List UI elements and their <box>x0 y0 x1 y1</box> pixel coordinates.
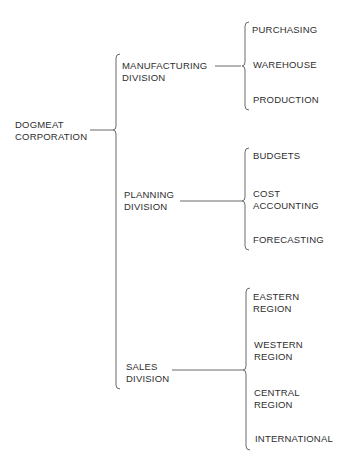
department-label-line1: EASTERN <box>253 291 299 303</box>
department-label: INTERNATIONAL <box>255 433 333 445</box>
department-label: PURCHASING <box>252 24 317 36</box>
division-label-line2: DIVISION <box>122 72 207 84</box>
department-label: FORECASTING <box>253 234 324 246</box>
department-production: PRODUCTION <box>253 94 319 106</box>
root-label-line2: CORPORATION <box>15 131 87 143</box>
department-western-region: WESTERN REGION <box>254 339 303 363</box>
department-label-line1: WESTERN <box>254 339 303 351</box>
root-node: DOGMEAT CORPORATION <box>15 119 87 143</box>
department-label-line1: COST <box>253 188 319 200</box>
department-eastern-region: EASTERN REGION <box>253 291 299 315</box>
department-forecasting: FORECASTING <box>253 234 324 246</box>
division-label-line1: PLANNING <box>124 189 174 201</box>
department-label: PRODUCTION <box>253 94 319 106</box>
division-planning: PLANNING DIVISION <box>124 189 174 213</box>
division-label-line1: SALES <box>126 361 169 373</box>
department-label-line2: REGION <box>253 303 299 315</box>
division-label-line2: DIVISION <box>124 201 174 213</box>
planning-brace <box>242 148 249 250</box>
org-chart: DOGMEAT CORPORATION MANUFACTURING DIVISI… <box>0 0 350 464</box>
department-label-line2: REGION <box>254 351 303 363</box>
sales-brace <box>243 288 250 450</box>
division-label-line1: MANUFACTURING <box>122 60 207 72</box>
department-label-line2: REGION <box>254 399 300 411</box>
department-budgets: BUDGETS <box>253 150 300 162</box>
department-label-line1: CENTRAL <box>254 387 300 399</box>
department-cost-accounting: COST ACCOUNTING <box>253 188 319 212</box>
department-label-line2: ACCOUNTING <box>253 200 319 212</box>
root-label-line1: DOGMEAT <box>15 119 87 131</box>
department-warehouse: WAREHOUSE <box>253 59 317 71</box>
division-manufacturing: MANUFACTURING DIVISION <box>122 60 207 84</box>
division-sales: SALES DIVISION <box>126 361 169 385</box>
department-international: INTERNATIONAL <box>255 433 333 445</box>
department-purchasing: PURCHASING <box>252 24 317 36</box>
department-label: BUDGETS <box>253 150 300 162</box>
department-central-region: CENTRAL REGION <box>254 387 300 411</box>
main-brace <box>113 54 120 389</box>
division-label-line2: DIVISION <box>126 373 169 385</box>
department-label: WAREHOUSE <box>253 59 317 71</box>
manufacturing-brace <box>242 22 249 110</box>
